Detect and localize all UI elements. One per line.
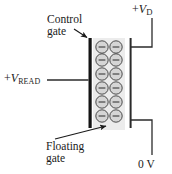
drain-voltage-sign: + (132, 2, 139, 16)
floating-gate-label-line2: gate (46, 152, 84, 164)
electron (110, 68, 122, 80)
diagram-canvas (0, 0, 172, 174)
electron (110, 110, 122, 122)
drain-voltage-subscript: D (146, 7, 152, 17)
electron (96, 68, 108, 80)
electron (96, 110, 108, 122)
drain-voltage-wire (131, 18, 152, 47)
ground-label: 0 V (138, 158, 155, 170)
control-gate-label-line1: Control (47, 13, 82, 25)
control-gate-label-line2: gate (47, 25, 82, 37)
control-gate-electrode (89, 38, 92, 128)
electron (96, 96, 108, 108)
floating-gate-label-line1: Floating (46, 140, 84, 152)
electron (110, 82, 122, 94)
electron (96, 82, 108, 94)
ground-wire (131, 120, 152, 155)
floating-gate-label: Floating gate (46, 140, 84, 165)
electron (110, 41, 122, 53)
electron (110, 96, 122, 108)
floating-gate-memory-diagram: Control gate Floating gate +VREAD +VD 0 … (0, 0, 172, 174)
electron (96, 54, 108, 66)
drain-voltage-label: +VD (132, 3, 152, 18)
read-voltage-sign: + (4, 71, 11, 85)
control-gate-label: Control gate (47, 13, 82, 38)
read-voltage-label: +VREAD (4, 72, 40, 87)
electron (96, 41, 108, 53)
floating-gate-leader-arrow (55, 126, 106, 139)
drain-electrode (130, 38, 132, 128)
read-voltage-subscript: READ (18, 77, 40, 86)
electron (110, 54, 122, 66)
